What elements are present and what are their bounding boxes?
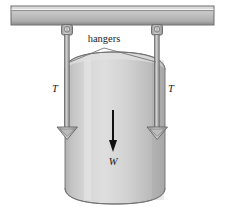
tank-highlight-streak — [84, 60, 91, 200]
hanger-right-top-bracket — [152, 25, 163, 35]
hangers-label: hangers — [88, 33, 121, 44]
tension-left-label: T — [52, 83, 59, 94]
tension-right-label: T — [168, 83, 175, 94]
overhead-beam — [11, 6, 214, 25]
figure-root: hangers T T W — [0, 0, 225, 207]
hanger-left-top-bracket — [62, 25, 73, 35]
weight-label: W — [109, 156, 119, 167]
hanger-right-rod — [155, 35, 160, 135]
hangers-free-body-diagram: hangers T T W — [0, 0, 225, 207]
hanger-left-rod — [65, 35, 70, 135]
